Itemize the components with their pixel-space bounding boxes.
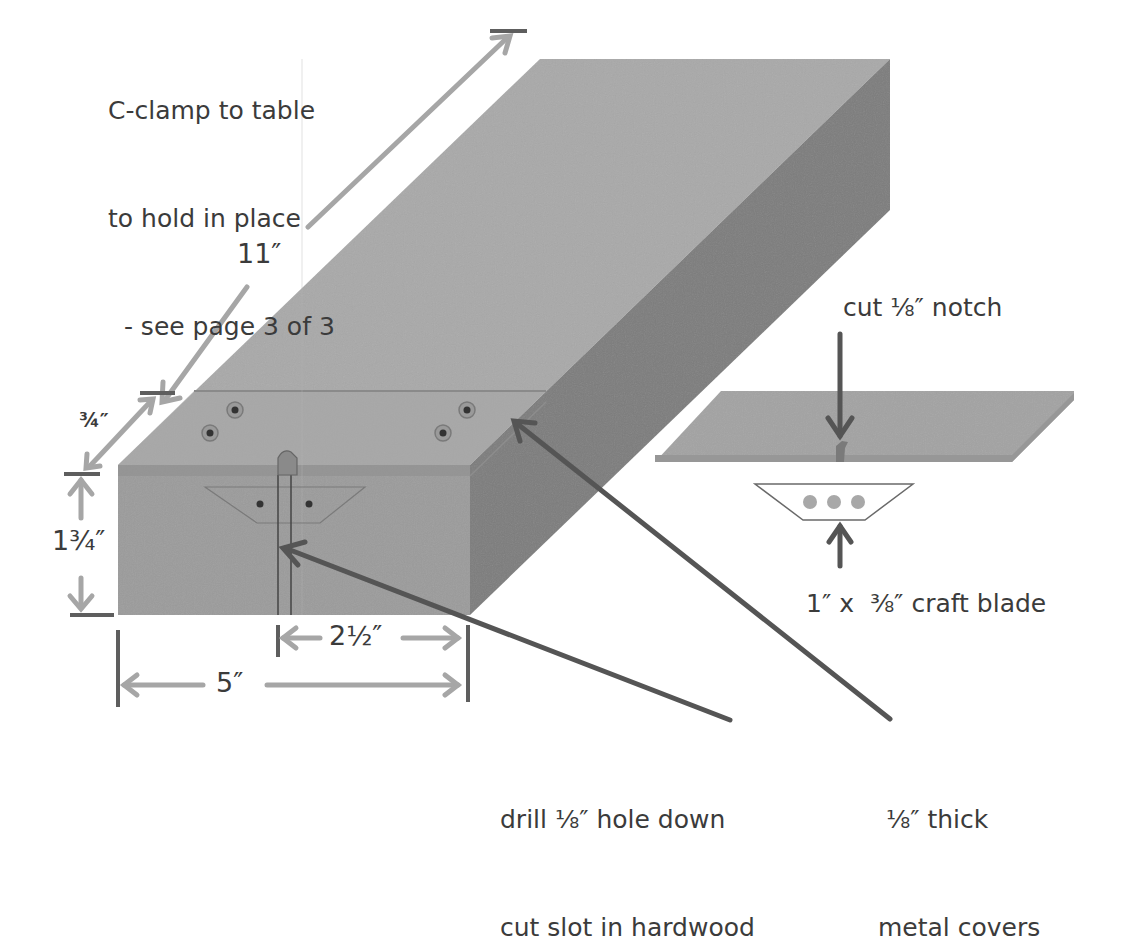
callout-arrow-metal — [514, 421, 890, 719]
drill-note: drill ⅛″ hole down cut slot in hardwood … — [500, 730, 755, 938]
notch-note: cut ⅛″ notch — [843, 290, 1002, 326]
notch-arrow — [828, 334, 852, 436]
metal-note-line-2: metal covers — [878, 910, 1040, 938]
craft-blade-shape — [755, 484, 913, 520]
clamp-note-line-2: to hold in place — [108, 201, 335, 237]
drill-note-line-2: cut slot in hardwood — [500, 910, 755, 938]
label-half-width: 2½″ — [329, 620, 382, 651]
clamp-note: C-clamp to table to hold in place - see … — [108, 21, 335, 381]
clamp-note-line-1: C-clamp to table — [108, 93, 335, 129]
blade-plate-detail — [655, 391, 1074, 462]
label-length: 11″ — [237, 238, 281, 269]
dimension-width — [124, 675, 458, 695]
blade-arrow — [829, 526, 851, 566]
label-width: 5″ — [216, 667, 243, 698]
label-plate-depth: ¾″ — [79, 408, 109, 432]
metal-note-line-1: ⅛″ thick — [878, 802, 1040, 838]
clamp-note-line-3: - see page 3 of 3 — [108, 309, 335, 345]
drill-note-line-1: drill ⅛″ hole down — [500, 802, 755, 838]
metal-note: ⅛″ thick metal covers the blade for safe… — [878, 730, 1040, 938]
blade-note: 1″ x ⅜″ craft blade — [806, 586, 1046, 622]
label-height: 1¾″ — [52, 525, 105, 556]
